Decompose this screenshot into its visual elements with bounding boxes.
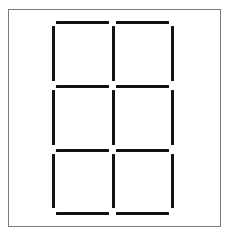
matchstick-h-r1-c0 [56, 85, 109, 88]
matchstick-h-r0-c0 [56, 21, 109, 24]
matchstick-v-r1-c0 [52, 90, 55, 145]
matchstick-v-r0-c2 [171, 26, 174, 81]
matchstick-h-r3-c0 [56, 212, 109, 215]
matchstick-h-r1-c1 [116, 85, 169, 88]
matchstick-v-r1-c1 [112, 90, 115, 145]
matchstick-h-r2-c0 [56, 149, 109, 152]
matchstick-v-r2-c2 [171, 154, 174, 208]
matchstick-h-r2-c1 [116, 149, 169, 152]
matchstick-v-r0-c0 [52, 26, 55, 81]
matchstick-v-r2-c1 [112, 154, 115, 208]
figure-canvas [0, 0, 234, 235]
matchstick-h-r3-c1 [116, 212, 169, 215]
matchstick-h-r0-c1 [116, 21, 169, 24]
matchstick-v-r1-c2 [171, 90, 174, 145]
matchstick-v-r0-c1 [112, 26, 115, 81]
matchstick-grid [0, 0, 234, 235]
matchstick-v-r2-c0 [52, 154, 55, 208]
